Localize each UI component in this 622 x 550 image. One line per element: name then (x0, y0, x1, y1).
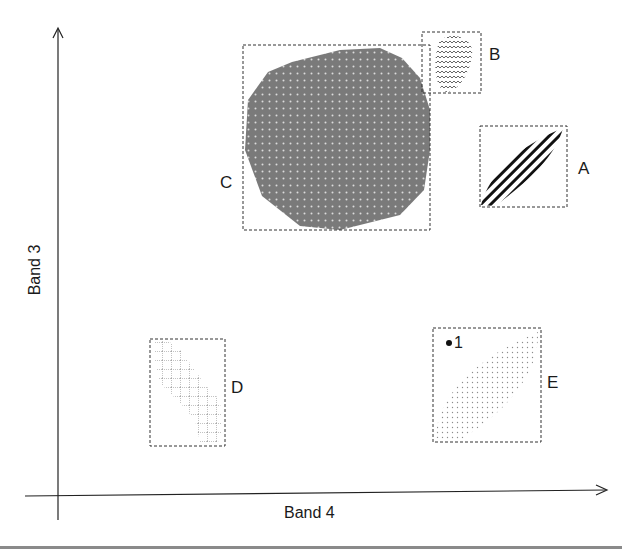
cluster-e (433, 328, 541, 442)
bottom-divider (0, 546, 622, 549)
y-axis (53, 28, 63, 520)
cluster-label-b: B (489, 46, 500, 63)
cluster-label-d: D (231, 379, 243, 396)
scatter-diagram (0, 0, 622, 550)
cluster-label-a: A (578, 160, 589, 177)
point-1-label: 1 (454, 335, 463, 351)
x-axis (25, 485, 607, 496)
cluster-b (422, 32, 481, 93)
point-1-marker (446, 340, 452, 346)
y-axis-label: Band 3 (27, 245, 43, 296)
cluster-d (150, 339, 225, 446)
x-axis-label: Band 4 (284, 505, 335, 521)
cluster-a (480, 126, 567, 207)
cluster-label-e: E (547, 374, 558, 391)
cluster-label-c: C (220, 174, 232, 191)
cluster-c (243, 45, 430, 230)
